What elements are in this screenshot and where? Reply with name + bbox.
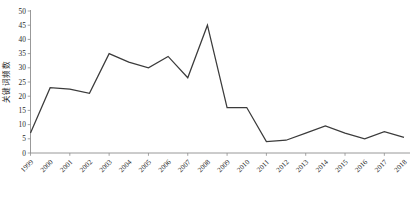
y-tick-label: 50 — [19, 7, 27, 16]
y-tick-label: 20 — [19, 92, 27, 101]
x-tick-label: 2017 — [373, 158, 389, 174]
x-tick-label: 2004 — [118, 158, 134, 174]
x-tick-label: 2003 — [98, 158, 114, 174]
x-tick-label: 2000 — [39, 158, 55, 174]
series-line-keyword-frequency — [31, 25, 405, 141]
y-tick-label: 45 — [19, 21, 27, 30]
x-axis-tick-group: 1999200020012002200320042005200620072008… — [19, 153, 409, 174]
x-tick-label: 2018 — [393, 158, 409, 174]
y-axis-tick-group: 05101520253035404550 — [19, 7, 31, 158]
x-tick-label: 2002 — [78, 158, 94, 174]
x-tick-label: 2008 — [196, 158, 212, 174]
x-tick-label: 2006 — [157, 158, 173, 174]
y-tick-label: 10 — [19, 120, 27, 129]
x-tick-label: 2001 — [59, 158, 75, 174]
x-tick-label: 2016 — [353, 158, 369, 174]
x-tick-label: 2014 — [314, 158, 330, 174]
chart-container: 05101520253035404550 1999200020012002200… — [0, 0, 417, 197]
y-tick-label: 40 — [19, 35, 27, 44]
y-tick-label: 0 — [22, 149, 26, 158]
y-tick-label: 5 — [22, 134, 26, 143]
x-tick-label: 2010 — [236, 158, 252, 174]
y-tick-label: 25 — [19, 78, 27, 87]
x-tick-label: 2013 — [295, 158, 311, 174]
y-tick-label: 15 — [19, 106, 27, 115]
x-tick-label: 1999 — [19, 158, 35, 174]
y-tick-label: 30 — [19, 63, 27, 72]
x-tick-label: 2011 — [255, 158, 271, 174]
y-axis-label: 关键词频数 — [1, 61, 11, 103]
line-chart-plot: 05101520253035404550 1999200020012002200… — [0, 0, 417, 197]
x-tick-label: 2009 — [216, 158, 232, 174]
x-tick-label: 2015 — [334, 158, 350, 174]
x-tick-label: 2005 — [137, 158, 153, 174]
y-tick-label: 35 — [19, 49, 27, 58]
x-tick-label: 2007 — [177, 158, 193, 174]
x-tick-label: 2012 — [275, 158, 291, 174]
